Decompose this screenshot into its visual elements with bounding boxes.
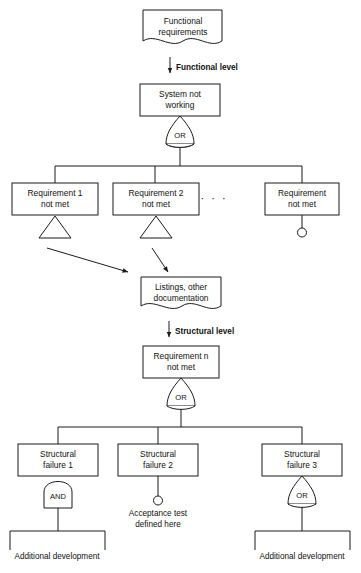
connector-additional-development-left: Additional development: [10, 508, 105, 561]
basic-event-circle-icon: [298, 228, 307, 237]
structural-level-label: Structural level: [175, 327, 234, 336]
requirement-n-top-line1: Requirement: [278, 188, 327, 198]
node-requirement-2: Requirement 2 not met: [113, 183, 199, 238]
node-requirement-n: Requirement n not met: [143, 346, 219, 378]
gate-or-failure-3: OR: [288, 476, 316, 507]
structural-failure-1-line1: Structural: [40, 449, 76, 459]
functional-requirements-line2: requirements: [159, 27, 208, 37]
node-requirement-1: Requirement 1 not met: [12, 183, 98, 238]
connector-additional-development-right: Additional development: [255, 507, 350, 561]
acceptance-test-marker: Acceptance test defined here: [129, 476, 188, 529]
gate-or-middle: OR: [167, 378, 195, 409]
or-gate-base-arc: [288, 504, 316, 507]
node-system-not-working: System not working: [140, 84, 220, 116]
structural-level-marker: Structural level: [169, 321, 234, 337]
transfer-triangle-icon: [39, 216, 71, 238]
requirement-2-line1: Requirement 2: [129, 188, 184, 198]
acceptance-test-line1: Acceptance test: [129, 509, 188, 518]
system-not-working-line1: System not: [159, 89, 202, 99]
requirement-n-line1: Requirement n: [154, 351, 209, 361]
node-listings-documentation: Listings, other documentation: [141, 277, 221, 308]
gate-and-failure-1: AND: [44, 482, 72, 509]
or-gate-failure-3-label: OR: [296, 491, 308, 500]
ellipsis-label: · · ·: [200, 192, 227, 204]
acceptance-test-line2: defined here: [135, 520, 181, 529]
structural-failure-2-line2: failure 2: [143, 460, 173, 470]
or-gate-top-label: OR: [174, 131, 186, 140]
additional-development-left-label: Additional development: [14, 552, 100, 561]
structural-failure-3-line1: Structural: [284, 449, 320, 459]
or-gate-base-arc: [167, 406, 195, 409]
functional-level-label: Functional level: [176, 63, 238, 72]
and-gate-label: AND: [50, 492, 67, 501]
node-structural-failure-2: Structural failure 2: [118, 444, 198, 476]
or-gate-base-arc: [166, 144, 194, 147]
system-not-working-line2: working: [165, 100, 195, 110]
listings-documentation-line2: documentation: [154, 293, 209, 303]
connector-functional-bus: [55, 147, 302, 183]
structural-failure-1-line2: failure 1: [43, 460, 73, 470]
additional-development-right-label: Additional development: [259, 552, 345, 561]
transfer-arrow-left: [47, 248, 128, 272]
functional-requirements-line1: Functional: [164, 16, 203, 26]
structural-failure-2-line1: Structural: [140, 449, 176, 459]
basic-event-circle-icon: [154, 496, 163, 505]
node-structural-failure-3: Structural failure 3: [262, 444, 342, 476]
connector-transfer-arrows: [47, 248, 168, 272]
node-requirement-n-top: Requirement not met: [265, 183, 339, 237]
requirement-n-line2: not met: [167, 362, 196, 372]
connector-structural-bus: [58, 409, 302, 444]
listings-documentation-line1: Listings, other: [155, 282, 207, 292]
structural-failure-3-line2: failure 3: [287, 460, 317, 470]
functional-level-marker: Functional level: [170, 57, 238, 73]
node-structural-failure-1: Structural failure 1: [18, 444, 98, 476]
requirement-2-line2: not met: [142, 199, 171, 209]
requirement-1-line1: Requirement 1: [28, 188, 83, 198]
requirement-1-line2: not met: [41, 199, 70, 209]
gate-or-top: OR: [166, 116, 194, 147]
node-functional-requirements: Functional requirements: [143, 10, 222, 43]
transfer-triangle-icon: [140, 216, 172, 238]
requirement-n-top-line2: not met: [288, 199, 317, 209]
fault-tree-diagram: Functional requirements Functional level…: [0, 0, 361, 573]
or-gate-middle-label: OR: [175, 393, 187, 402]
transfer-arrow-right: [152, 248, 168, 272]
